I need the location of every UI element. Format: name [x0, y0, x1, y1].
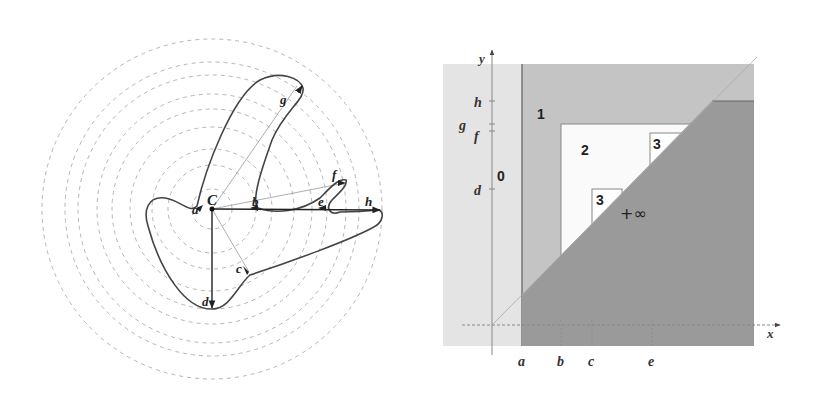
x-tick-e: e	[648, 354, 654, 369]
region-diagram: y x a b c e h g f d 0 1 2 3 3 +∞	[430, 0, 823, 403]
label-b: b	[252, 194, 259, 209]
label-center-c: C	[207, 192, 218, 208]
region-1-label: 1	[537, 106, 545, 122]
curve-diagram: C a b c d e f g h	[0, 0, 430, 403]
region-0-label: 0	[497, 168, 505, 184]
label-d: d	[202, 294, 209, 309]
label-a: a	[192, 202, 199, 217]
region-3-lower-label: 3	[596, 192, 604, 208]
label-f: f	[332, 167, 338, 182]
label-g: g	[279, 92, 287, 107]
label-c: c	[236, 261, 242, 276]
y-tick-g: g	[458, 118, 466, 133]
region-infinity-label: +∞	[620, 204, 647, 223]
curve-diagram-canvas: C a b c d e f g h	[0, 0, 430, 403]
x-tick-b: b	[557, 354, 564, 369]
region-3-upper-label: 3	[653, 136, 661, 152]
y-tick-h: h	[474, 95, 482, 110]
region-diagram-canvas: y x a b c e h g f d 0 1 2 3 3 +∞	[430, 0, 823, 403]
y-axis-label: y	[477, 51, 485, 66]
closed-curve	[146, 75, 382, 309]
x-tick-c: c	[588, 354, 595, 369]
region-2-label: 2	[581, 142, 589, 158]
x-axis-label: x	[766, 326, 774, 341]
label-h: h	[365, 194, 372, 209]
label-e: e	[318, 194, 324, 209]
y-tick-d: d	[474, 183, 482, 198]
x-tick-a: a	[518, 354, 525, 369]
